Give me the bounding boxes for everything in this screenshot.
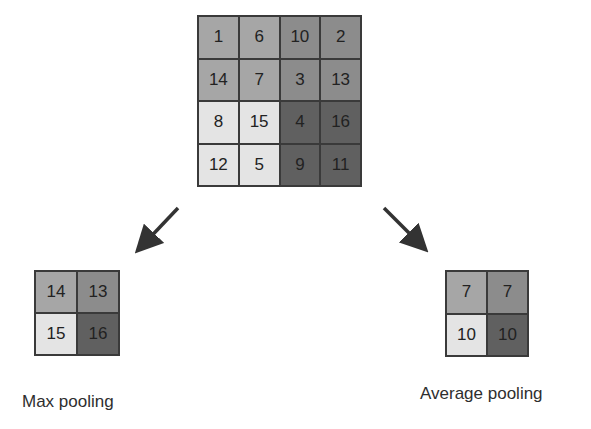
max-pooling-label: Max pooling <box>22 392 114 412</box>
arrow-down-right-icon <box>384 208 421 245</box>
arrows <box>0 0 591 429</box>
average-pooling-label: Average pooling <box>420 384 543 404</box>
arrow-down-left-icon <box>142 208 178 246</box>
